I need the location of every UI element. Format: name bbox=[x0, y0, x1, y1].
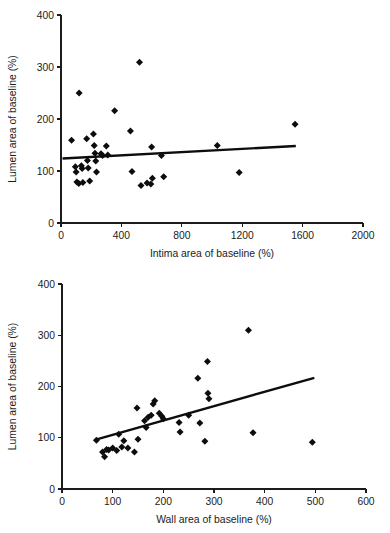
data-point bbox=[201, 438, 208, 445]
data-point bbox=[124, 445, 131, 452]
chart-panel-bottom: 01002003004000100200300400500600Wall are… bbox=[0, 266, 390, 533]
figure-container: 01002003004000400800120016002000Intima a… bbox=[0, 0, 390, 533]
x-axis-tick-label: 500 bbox=[307, 496, 324, 507]
y-axis-tick-label: 0 bbox=[48, 218, 54, 229]
x-axis-tick-label: 0 bbox=[58, 230, 64, 241]
data-point bbox=[177, 429, 184, 436]
x-axis-tick-label: 200 bbox=[155, 496, 172, 507]
data-point bbox=[245, 327, 252, 334]
y-axis-tick-label: 100 bbox=[38, 432, 55, 443]
y-axis-title: Lumen area of baseline (%) bbox=[7, 323, 18, 451]
data-point bbox=[214, 142, 221, 149]
trendline bbox=[63, 146, 296, 158]
x-axis-tick-label: 300 bbox=[205, 496, 222, 507]
data-point bbox=[118, 443, 125, 450]
data-point bbox=[309, 439, 316, 446]
data-point bbox=[120, 437, 127, 444]
data-point bbox=[72, 163, 79, 170]
data-point bbox=[128, 168, 135, 175]
data-point bbox=[135, 436, 142, 443]
data-point bbox=[83, 135, 90, 142]
data-point bbox=[160, 173, 167, 180]
x-axis-tick-label: 400 bbox=[256, 496, 273, 507]
y-axis-title: Lumen area of baseline (%) bbox=[7, 55, 18, 183]
data-point bbox=[250, 429, 257, 436]
data-point bbox=[236, 169, 243, 176]
data-point bbox=[85, 164, 92, 171]
data-point bbox=[204, 358, 211, 365]
scatter-plot-wall: 01002003004000100200300400500600Wall are… bbox=[0, 266, 390, 533]
x-axis-tick-label: 100 bbox=[104, 496, 121, 507]
x-axis-tick-label: 0 bbox=[59, 496, 65, 507]
y-axis-tick-label: 200 bbox=[38, 381, 55, 392]
chart-panel-top: 01002003004000400800120016002000Intima a… bbox=[0, 0, 390, 266]
data-point bbox=[196, 419, 203, 426]
x-axis-title: Intima area of baseline (%) bbox=[150, 248, 274, 259]
y-axis-tick-label: 300 bbox=[37, 62, 54, 73]
data-point bbox=[76, 90, 83, 97]
data-point bbox=[131, 449, 138, 456]
data-point bbox=[194, 375, 201, 382]
y-axis-tick-label: 400 bbox=[38, 279, 55, 290]
data-point bbox=[93, 169, 100, 176]
x-axis-tick-label: 1200 bbox=[231, 230, 254, 241]
y-axis-tick-label: 200 bbox=[37, 114, 54, 125]
x-axis-tick-label: 2000 bbox=[352, 230, 375, 241]
y-axis-tick-label: 100 bbox=[37, 166, 54, 177]
x-axis-tick-label: 800 bbox=[173, 230, 190, 241]
data-point bbox=[148, 144, 155, 151]
data-point bbox=[127, 127, 134, 134]
x-axis-tick-label: 600 bbox=[357, 496, 374, 507]
data-point bbox=[176, 419, 183, 426]
data-point bbox=[138, 182, 145, 189]
data-point bbox=[92, 158, 99, 165]
data-point bbox=[111, 107, 118, 114]
data-point bbox=[133, 405, 140, 412]
x-axis-title: Wall area of baseline (%) bbox=[156, 514, 272, 525]
data-point bbox=[90, 131, 97, 138]
y-axis-tick-label: 400 bbox=[37, 10, 54, 21]
data-point bbox=[91, 142, 98, 149]
data-point bbox=[73, 169, 80, 176]
data-point bbox=[292, 121, 299, 128]
data-point bbox=[103, 143, 110, 150]
trendline bbox=[95, 378, 314, 440]
data-point bbox=[204, 390, 211, 397]
x-axis-tick-label: 400 bbox=[113, 230, 130, 241]
data-point bbox=[205, 395, 212, 402]
data-point bbox=[86, 177, 93, 184]
x-axis-tick-label: 1600 bbox=[291, 230, 314, 241]
scatter-plot-intima: 01002003004000400800120016002000Intima a… bbox=[0, 0, 390, 266]
y-axis-tick-label: 0 bbox=[49, 484, 55, 495]
data-point bbox=[68, 137, 75, 144]
y-axis-tick-label: 300 bbox=[38, 330, 55, 341]
data-point bbox=[136, 59, 143, 66]
data-point bbox=[149, 175, 156, 182]
